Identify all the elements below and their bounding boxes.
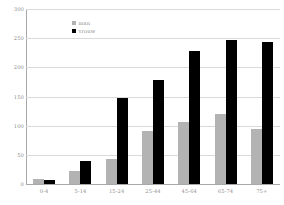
y-axis-tick-label: 200 (2, 64, 24, 70)
legend-label: vrouw (79, 28, 96, 34)
bar-group (29, 9, 59, 184)
legend-swatch-icon (72, 21, 76, 25)
legend-item: vrouw (72, 28, 95, 34)
bar-vrouw (80, 161, 91, 184)
y-axis-tick-label: 50 (2, 152, 24, 158)
bar-vrouw (226, 40, 237, 184)
bar-group (65, 9, 95, 184)
y-axis-tick-label: 250 (2, 35, 24, 41)
bar-vrouw (153, 80, 164, 184)
bars-layer (26, 9, 280, 184)
bar-group (102, 9, 132, 184)
x-axis-tick-label: 45-64 (174, 188, 204, 202)
bar-man (178, 122, 189, 184)
plot-area: manvrouw (26, 9, 280, 184)
bar-group (211, 9, 241, 184)
x-axis-tick-label: 25-44 (138, 188, 168, 202)
bar-man (251, 129, 262, 184)
bar-man (106, 159, 117, 184)
legend: manvrouw (72, 20, 95, 34)
bar-man (69, 171, 80, 184)
bar-vrouw (262, 42, 273, 184)
bar-group (174, 9, 204, 184)
x-axis-tick-label: 15-24 (102, 188, 132, 202)
x-axis-tick-label: 0-4 (29, 188, 59, 202)
y-axis-tick-labels: 300250200150100500 (0, 0, 24, 205)
x-axis-tick-label: 75+ (247, 188, 277, 202)
bar-man (142, 131, 153, 184)
bar-vrouw (44, 180, 55, 184)
bar-man (215, 114, 226, 184)
bar-vrouw (117, 98, 128, 184)
x-axis-tick-labels: 0-45-1415-2425-4445-6465-7475+ (26, 188, 280, 202)
legend-label: man (79, 20, 91, 26)
y-axis-tick-label: 0 (2, 181, 24, 187)
x-axis-tick-label: 5-14 (65, 188, 95, 202)
bar-group (247, 9, 277, 184)
axis-baseline (26, 184, 280, 185)
legend-swatch-icon (72, 29, 76, 33)
bar-group (138, 9, 168, 184)
x-axis-tick-label: 65-74 (211, 188, 241, 202)
legend-item: man (72, 20, 95, 26)
bar-man (33, 179, 44, 184)
y-axis-tick-label: 300 (2, 6, 24, 12)
bar-vrouw (189, 51, 200, 184)
bar-chart: 300250200150100500 manvrouw 0-45-1415-24… (0, 0, 284, 205)
y-axis-tick-label: 100 (2, 123, 24, 129)
y-axis-tick-label: 150 (2, 94, 24, 100)
